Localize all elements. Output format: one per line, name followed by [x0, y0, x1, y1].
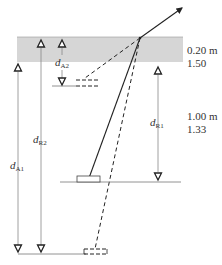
down-triangle-icon	[59, 78, 66, 85]
anchor-plate	[77, 176, 100, 182]
down-triangle-icon	[15, 245, 22, 252]
top-layer-thickness: 0.20 m	[187, 44, 218, 56]
middle-layer-thickness: 1.00 m	[187, 110, 218, 122]
label-dR1: dR1	[150, 116, 164, 130]
top-layer-factor: 1.50	[187, 57, 207, 69]
diagram-canvas: dA2 dR2 dA1 dR1 0.20 m 1.50 1.00 m 1.33	[0, 0, 222, 265]
middle-layer-factor: 1.33	[187, 123, 207, 135]
dimension-dA1	[15, 64, 22, 252]
label-dR2: dR2	[33, 133, 47, 147]
down-triangle-icon	[155, 173, 162, 180]
up-triangle-icon	[15, 64, 22, 71]
label-dA1: dA1	[10, 159, 25, 173]
up-triangle-icon	[155, 67, 162, 74]
down-triangle-icon	[38, 245, 45, 252]
tie-line-outgoing	[140, 8, 182, 38]
